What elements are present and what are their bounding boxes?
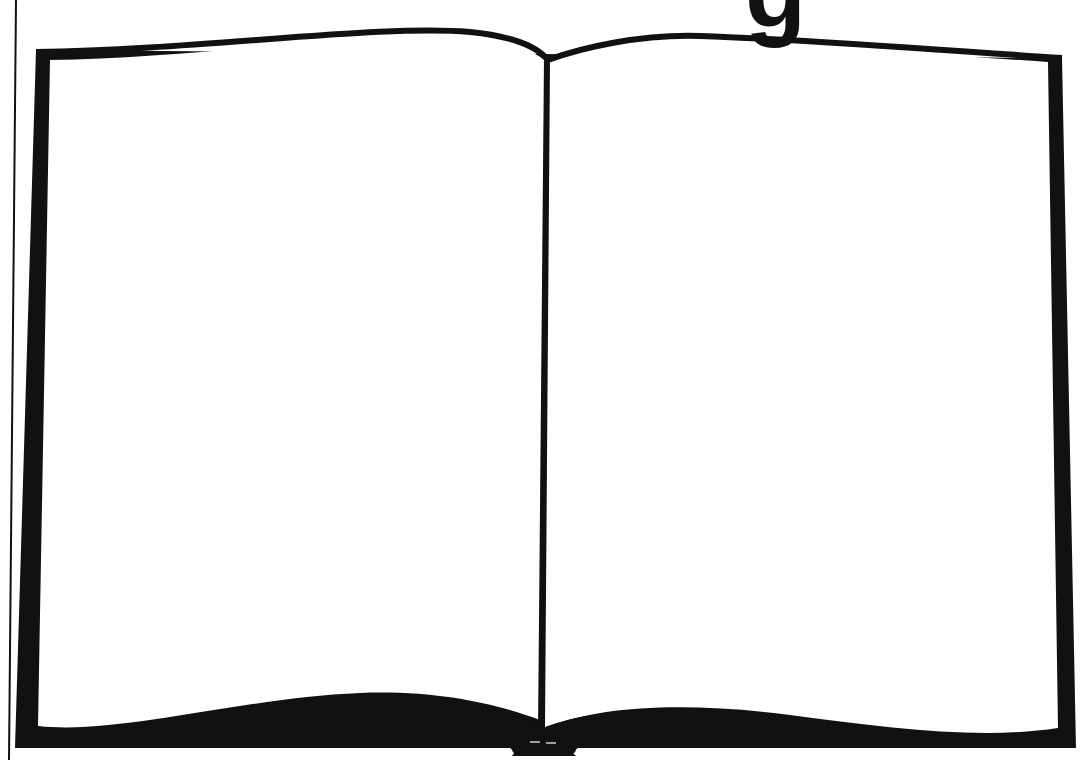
margin-line [9, 0, 16, 760]
book-illustration: g [0, 0, 1085, 760]
title-letter-fragment: g [745, 0, 808, 42]
right-page [545, 40, 1058, 733]
left-page [38, 37, 545, 728]
spine-bottom-tab [512, 736, 576, 754]
open-book-icon [0, 0, 1085, 760]
